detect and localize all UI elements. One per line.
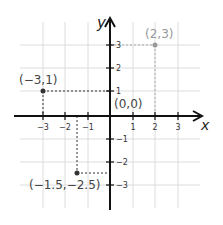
y-axis-label: y (96, 14, 107, 32)
point-label: (−1.5,−2.5) (29, 178, 100, 192)
x-tick-label: −1 (82, 123, 94, 132)
x-tick-label: −2 (59, 123, 71, 132)
y-tick-label: 2 (116, 64, 121, 73)
y-tick-label: 1 (116, 87, 121, 96)
point-label: (−3,1) (19, 73, 58, 87)
point-label: (2,3) (145, 27, 173, 41)
x-tick-label: 3 (175, 123, 180, 132)
point-neg3-1 (41, 89, 46, 94)
y-tick-label: −3 (116, 181, 128, 190)
x-tick-label: 2 (152, 123, 157, 132)
y-tick-label: −2 (116, 158, 128, 167)
coordinate-plane: −3 −2 −1 1 2 3 3 2 1 −1 −2 −3 x y (2,3) … (0, 0, 223, 225)
point-2-3 (153, 43, 158, 48)
y-tick-label: −1 (116, 135, 128, 144)
point-neg1.5-neg2.5 (75, 171, 80, 176)
x-axis-label: x (200, 117, 210, 133)
point-label: (0,0) (114, 97, 142, 111)
x-tick-label: −3 (37, 123, 49, 132)
y-tick-label: 3 (116, 41, 121, 50)
x-tick-label: 1 (130, 123, 135, 132)
